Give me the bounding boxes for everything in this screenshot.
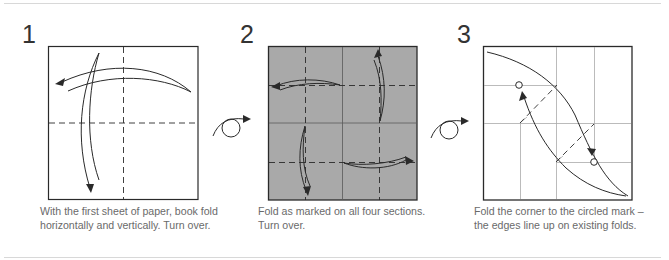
step-3-caption: Fold the corner to the circled mark – th… <box>474 204 669 232</box>
circle-mark-icon <box>516 82 523 89</box>
circle-mark-icon <box>591 159 598 166</box>
